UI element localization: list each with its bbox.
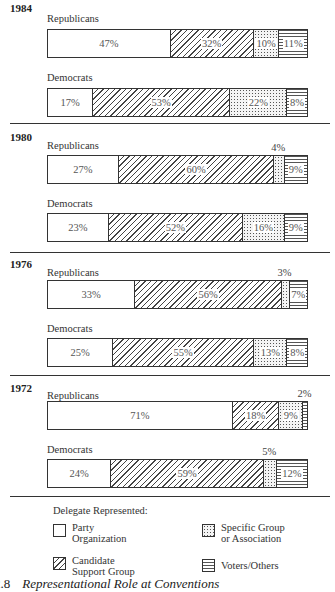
value-label: 9% [288,164,304,175]
specific-group-segment: 13% [253,339,286,366]
value-label: 8% [289,347,305,358]
specific-group-segment [273,156,283,183]
value-label: 27% [73,164,92,175]
value-label: 55% [172,347,193,358]
party-label: Republicans [47,140,99,151]
legend-item-party: Party Organization [53,522,127,544]
stacked-bar: 25%55%13%8% [47,338,308,367]
value-label: 33% [82,289,101,300]
specific-group-swatch-icon [202,524,215,537]
value-label: 47% [99,38,118,49]
party-label: Democrats [47,198,92,209]
candidate-support-segment: 53% [92,89,229,116]
voters-others-swatch-icon [202,559,215,572]
party-label: Democrats [47,323,92,334]
value-label: 13% [260,347,281,358]
figure-caption: 2.8Representational Role at Conventions [0,576,219,592]
voters-others-segment: 8% [286,89,307,116]
year-label: 1976 [10,258,32,270]
section-divider [10,496,330,497]
candidate-support-segment: 60% [118,156,273,183]
specific-group-segment: 16% [242,214,283,241]
value-label: 7% [290,289,306,300]
voters-others-segment: 8% [286,339,307,366]
specific-group-segment: 22% [229,89,286,116]
year-label: 1972 [10,382,32,394]
legend-label-line1: Party [72,522,127,533]
value-label: 18% [245,410,266,421]
party-label: Democrats [47,444,92,455]
value-label: 32% [201,38,222,49]
candidate-support-segment: 18% [232,402,279,429]
value-label-outside: 4% [271,142,285,153]
specific-group-segment [281,281,289,308]
party-organization-segment: 27% [48,156,118,183]
section-divider [10,252,330,253]
year-label: 1980 [10,131,32,143]
legend-label-line2: Organization [72,533,127,544]
legend-item-candidate: Candidate Support Group [53,555,135,577]
party-organization-segment: 24% [48,460,110,487]
candidate-support-segment: 56% [134,281,281,308]
specific-group-segment: 10% [253,30,279,57]
section-divider [10,375,330,376]
legend-item-voters: Voters/Others [202,559,279,572]
specific-group-segment [263,460,276,487]
caption-number: 2.8 [0,576,10,591]
value-label: 10% [255,38,276,49]
voters-others-segment: 11% [278,30,306,57]
party-organization-swatch-icon [53,524,66,537]
value-label-outside: 3% [278,267,292,278]
legend-label-line1: Voters/Others [221,559,279,572]
stacked-bar: 23%52%16%9% [47,213,308,242]
candidate-support-segment: 55% [112,339,253,366]
value-label: 60% [185,164,206,175]
value-label: 25% [70,347,89,358]
party-organization-segment: 71% [48,402,232,429]
value-label: 52% [165,222,186,233]
voters-others-segment: 12% [276,460,307,487]
party-label: Republicans [47,267,99,278]
value-label: 53% [151,97,172,108]
legend-item-specific: Specific Group or Association [202,522,285,544]
caption-title: Representational Role at Conventions [22,576,219,591]
party-organization-segment: 23% [48,214,108,241]
voters-others-segment: 7% [289,281,307,308]
party-label: Republicans [47,390,99,401]
party-organization-segment: 17% [48,89,92,116]
legend-title: Delegate Represented: [53,505,148,516]
party-label: Republicans [47,13,99,24]
stacked-bar: 24%59%12% [47,459,308,488]
value-label: 9% [288,222,304,233]
stacked-bar: 17%53%22%8% [47,88,308,117]
value-label: 22% [248,97,269,108]
party-organization-segment: 33% [48,281,134,308]
value-label: 8% [289,97,305,108]
stacked-bar: 27%60%9% [47,155,308,184]
candidate-support-segment: 52% [108,214,243,241]
value-label: 9% [283,410,299,421]
value-label: 17% [60,97,79,108]
stacked-bar: 71%18%9% [47,401,308,430]
value-label: 12% [281,468,302,479]
legend-label-line1: Specific Group [221,522,285,533]
value-label: 23% [68,222,87,233]
candidate-support-segment: 59% [110,460,263,487]
year-label: 1984 [10,2,32,14]
value-label: 56% [197,289,218,300]
value-label-outside: 2% [297,388,311,399]
candidate-support-segment: 32% [170,30,253,57]
party-organization-segment: 25% [48,339,112,366]
value-label: 59% [176,468,197,479]
value-label: 16% [253,222,274,233]
candidate-support-swatch-icon [53,557,66,570]
voters-others-segment: 9% [284,156,307,183]
legend-label-line2: or Association [221,533,285,544]
voters-others-segment: 9% [284,214,307,241]
stacked-bar: 47%32%10%11% [47,29,308,58]
value-label: 11% [283,38,304,49]
legend-label-line1: Candidate [72,555,135,566]
party-label: Democrats [47,72,92,83]
voters-others-segment [302,402,307,429]
value-label-outside: 5% [262,446,276,457]
